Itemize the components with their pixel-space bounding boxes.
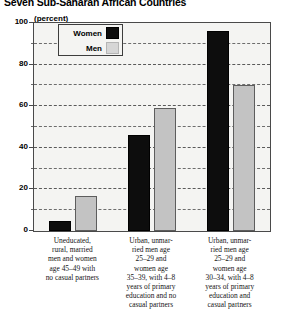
legend-label-men: Men [86,44,102,53]
bar-men-group-2 [154,108,176,231]
bar-women-group-3 [207,31,229,231]
category-label-line: casual partners [190,300,269,309]
category-label-line: ried men age [190,245,269,254]
bar-women-group-2 [128,135,150,231]
category-label-line: years of primary [190,282,269,291]
chart-title: Seven Sub-Saharan African Countries [4,0,278,6]
gridline [34,64,270,65]
figure: Seven Sub-Saharan African Countries (per… [0,0,282,319]
y-axis-tick-label: 60 [0,100,28,109]
y-axis-tick-label: 80 [0,59,28,68]
category-label-line: Urban, unmar- [112,236,191,245]
category-label-line: education and [190,291,269,300]
category-label-line: Urban, unmar- [190,236,269,245]
category-label-line: men and women [33,254,112,263]
legend-label-women: Women [73,29,102,38]
category-label-1: Uneducated,rural, marriedmen and womenag… [33,236,112,282]
category-label-line: ried men age [112,245,191,254]
category-label-line: 25–29 and [112,254,191,263]
category-label-line: 35–39, with 4–8 [112,273,191,282]
category-label-line: 25–29 and [190,254,269,263]
legend-swatch-women-icon [106,27,119,39]
y-axis-tick-label: 100 [0,17,28,26]
y-axis-tick-label: 0 [0,225,28,234]
category-label-line: rural, married [33,245,112,254]
category-label-line: age 45–49 with [33,264,112,273]
category-label-line: years of primary [112,282,191,291]
category-label-line: no casual partners [33,273,112,282]
category-label-line: casual partners [112,300,191,309]
y-axis-tick-label: 40 [0,142,28,151]
category-labels: Uneducated,rural, marriedmen and womenag… [33,236,271,318]
category-label-line: women age [190,264,269,273]
category-label-line: 30–34, with 4–8 [190,273,269,282]
bar-women-group-1 [49,221,71,231]
legend: Women Men [58,24,123,56]
category-label-line: Uneducated, [33,236,112,245]
legend-swatch-men-icon [106,42,119,54]
legend-entry-men: Men [59,40,122,56]
bar-men-group-3 [233,85,255,231]
category-label-line: education and no [112,291,191,300]
bar-men-group-1 [75,196,97,231]
category-label-3: Urban, unmar-ried men age25–29 andwomen … [190,236,269,310]
category-label-2: Urban, unmar-ried men age25–29 andwomen … [112,236,191,310]
legend-entry-women: Women [59,25,122,41]
category-label-line: women age [112,264,191,273]
y-axis-tick-label: 20 [0,183,28,192]
